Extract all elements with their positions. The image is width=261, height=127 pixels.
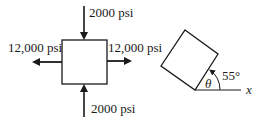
- element-square: [62, 40, 107, 84]
- bottom-load-label: 2000 psi: [91, 101, 136, 116]
- left-load-label: 12,000 psi: [8, 40, 63, 55]
- angle-arc-icon: [210, 70, 220, 90]
- x-axis-label: x: [245, 82, 252, 97]
- stress-diagram: 2000 psi 2000 psi 12,000 psi 12,000 psi …: [0, 0, 261, 127]
- theta-label: θ: [205, 76, 212, 91]
- angle-value-label: 55°: [222, 68, 240, 83]
- top-load-label: 2000 psi: [89, 5, 134, 20]
- rotated-element: θ 55° x: [161, 30, 252, 97]
- stress-element: 2000 psi 2000 psi 12,000 psi 12,000 psi: [8, 5, 163, 117]
- right-load-label: 12,000 psi: [108, 40, 163, 55]
